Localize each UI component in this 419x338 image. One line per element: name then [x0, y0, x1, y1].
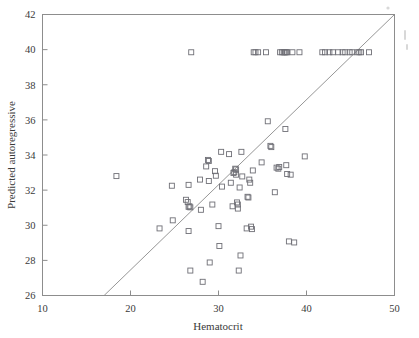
x-tick-label: 20 [125, 303, 136, 314]
data-point [157, 226, 162, 231]
data-point [227, 152, 232, 157]
data-point [284, 163, 289, 168]
data-point [219, 149, 224, 154]
data-point [207, 260, 212, 265]
data-point [186, 182, 191, 187]
x-axis-ticks [43, 291, 395, 296]
data-point [239, 149, 244, 154]
y-tick-label: 30 [25, 220, 36, 231]
data-point [228, 180, 233, 185]
y-tick-label: 32 [25, 185, 36, 196]
scatter-plot-figure: 1020304050 262830323436384042 Hematocrit… [0, 0, 419, 338]
data-point [236, 268, 241, 273]
data-point [250, 168, 255, 173]
data-point [292, 240, 297, 245]
x-tick-label: 50 [389, 303, 400, 314]
data-point [186, 229, 191, 234]
data-point [237, 185, 242, 190]
y-axis-tick-labels: 262830323436384042 [25, 9, 36, 301]
plot-frame [43, 15, 395, 296]
chart-canvas: 1020304050 262830323436384042 Hematocrit… [0, 0, 419, 338]
data-point [198, 177, 203, 182]
data-point [240, 174, 245, 179]
y-tick-label: 36 [25, 115, 36, 126]
data-point [204, 164, 209, 169]
y-tick-label: 28 [25, 255, 36, 266]
y-axis-ticks [43, 15, 48, 296]
x-tick-label: 40 [301, 303, 312, 314]
data-point [259, 160, 264, 165]
x-axis-tick-labels: 1020304050 [37, 303, 400, 314]
data-point [290, 50, 295, 55]
y-tick-label: 42 [25, 9, 36, 20]
y-tick-label: 40 [25, 44, 36, 55]
data-point [330, 50, 335, 55]
data-point [302, 154, 307, 159]
data-point [283, 127, 288, 132]
data-point [217, 243, 222, 248]
y-tick-label: 38 [25, 80, 36, 91]
scan-artifacts [386, 6, 408, 50]
data-point [366, 50, 371, 55]
data-point [170, 218, 175, 223]
data-point [264, 50, 269, 55]
data-point [238, 253, 243, 258]
data-point [210, 202, 215, 207]
data-point [272, 190, 277, 195]
data-point [188, 268, 193, 273]
y-axis-title: Predicted autoregressive [5, 101, 17, 209]
data-point [359, 50, 364, 55]
y-tick-label: 26 [25, 290, 36, 301]
x-tick-label: 30 [213, 303, 224, 314]
x-tick-label: 10 [37, 303, 48, 314]
data-point [189, 50, 194, 55]
data-point [297, 50, 302, 55]
data-point [114, 174, 119, 179]
identity-reference-line [104, 15, 394, 296]
data-point [198, 207, 203, 212]
data-point [220, 184, 225, 189]
x-axis-title: Hematocrit [193, 320, 242, 332]
data-point [265, 119, 270, 124]
data-point [206, 178, 211, 183]
data-point [200, 279, 205, 284]
data-point [216, 224, 221, 229]
y-tick-label: 34 [25, 150, 36, 161]
data-point [169, 183, 174, 188]
identity-reference-line [104, 15, 394, 296]
data-point [286, 239, 291, 244]
